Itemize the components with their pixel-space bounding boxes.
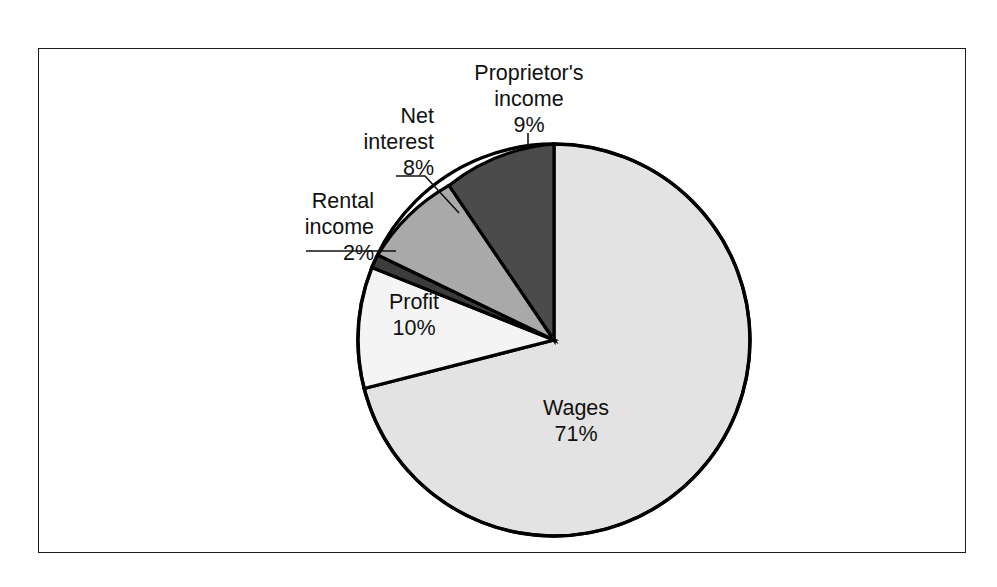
slice-label-rental-income: Rental income 2% [228, 188, 374, 266]
slice-label-proprietors-income: Proprietor's income 9% [444, 60, 614, 138]
pie-chart-figure: Proprietor's income 9% Net interest 8% R… [0, 0, 997, 587]
slice-label-wages: Wages 71% [518, 395, 634, 447]
slice-label-net-interest: Net interest 8% [308, 103, 434, 181]
slice-label-profit: Profit 10% [366, 289, 462, 341]
